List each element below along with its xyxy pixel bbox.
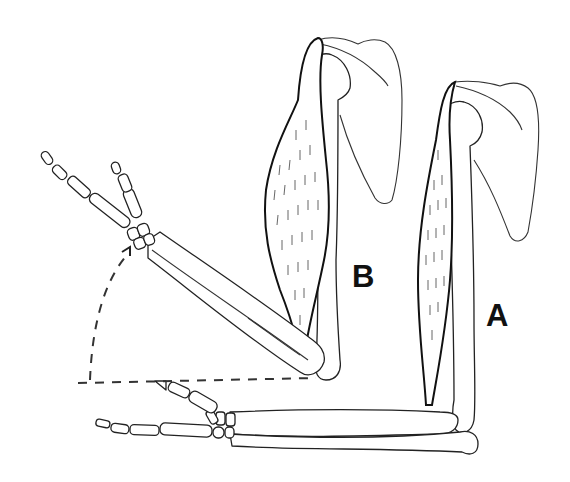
motion-arc-arrow [90, 256, 126, 380]
arrow-head-icon [122, 247, 130, 256]
label-arm-b: B [352, 261, 374, 292]
arm-b [40, 38, 402, 380]
arm-flexion-diagram [0, 0, 570, 482]
label-arm-a: A [486, 300, 508, 331]
fingers-b [40, 150, 144, 230]
biceps-a [418, 82, 455, 405]
forearm-a [230, 410, 458, 437]
fingers-a [95, 381, 219, 438]
horizontal-reference-line [78, 378, 316, 383]
